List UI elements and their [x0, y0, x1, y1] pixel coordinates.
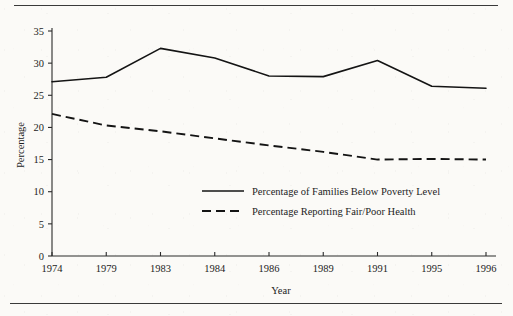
chart-legend: Percentage of Families Below Poverty Lev… [202, 186, 440, 217]
y-axis-tick-label: 25 [34, 90, 45, 101]
x-axis-tick-label: 1983 [150, 263, 171, 274]
x-axis-tick-label: 1984 [204, 263, 226, 274]
x-axis-tick-label: 1979 [96, 263, 117, 274]
y-axis-tick-label: 10 [34, 186, 45, 197]
y-axis-tick-label: 20 [34, 122, 45, 133]
x-axis-tick-label: 1989 [313, 263, 334, 274]
figure-container: 05101520253035 1974197919831984198619891… [0, 0, 513, 316]
x-axis-title: Year [271, 285, 291, 296]
y-axis: 05101520253035 [34, 26, 53, 262]
y-axis-title: Percentage [15, 122, 26, 168]
y-axis-tick-label: 15 [34, 154, 45, 165]
x-axis: 197419791983198419861989199119951996 [42, 252, 497, 274]
x-axis-tick-label: 1995 [421, 263, 442, 274]
series-line-2 [52, 114, 486, 160]
y-axis-tick-label: 30 [34, 58, 45, 69]
y-axis-tick-label: 35 [34, 26, 45, 37]
y-axis-tick-label: 0 [39, 251, 44, 262]
x-axis-tick-label: 1996 [476, 263, 497, 274]
y-axis-tick-label: 5 [39, 219, 44, 230]
x-axis-tick-label: 1974 [42, 263, 64, 274]
legend-label-1: Percentage of Families Below Poverty Lev… [252, 186, 440, 197]
x-axis-tick-label: 1986 [259, 263, 280, 274]
x-axis-tick-label: 1991 [367, 263, 388, 274]
series-layer [52, 48, 486, 159]
line-chart: 05101520253035 1974197919831984198619891… [0, 0, 513, 316]
legend-label-2: Percentage Reporting Fair/Poor Health [252, 206, 416, 217]
series-line-1 [52, 48, 486, 88]
